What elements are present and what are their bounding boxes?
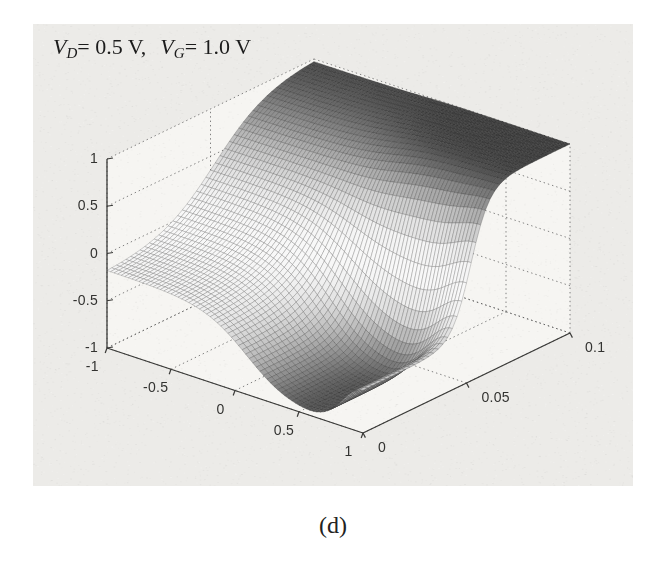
figure-panel: -1-0.500.5100.050.1-1-0.500.51 VD= 0.5 V… (33, 24, 633, 486)
title-subscript-g: G (174, 45, 185, 61)
figure-caption: (d) (33, 512, 633, 539)
title-symbol-vg: V (160, 34, 173, 59)
surface-plot-canvas (33, 24, 633, 486)
figure-page: -1-0.500.5100.050.1-1-0.500.51 VD= 0.5 V… (0, 0, 657, 561)
title-symbol-vd: V (53, 34, 66, 59)
title-value-vd: = 0.5 V, (77, 34, 146, 59)
title-subscript-d: D (66, 45, 77, 61)
title-value-vg: = 1.0 V (185, 34, 251, 59)
plot-title: VD= 0.5 V,VG= 1.0 V (53, 34, 251, 62)
